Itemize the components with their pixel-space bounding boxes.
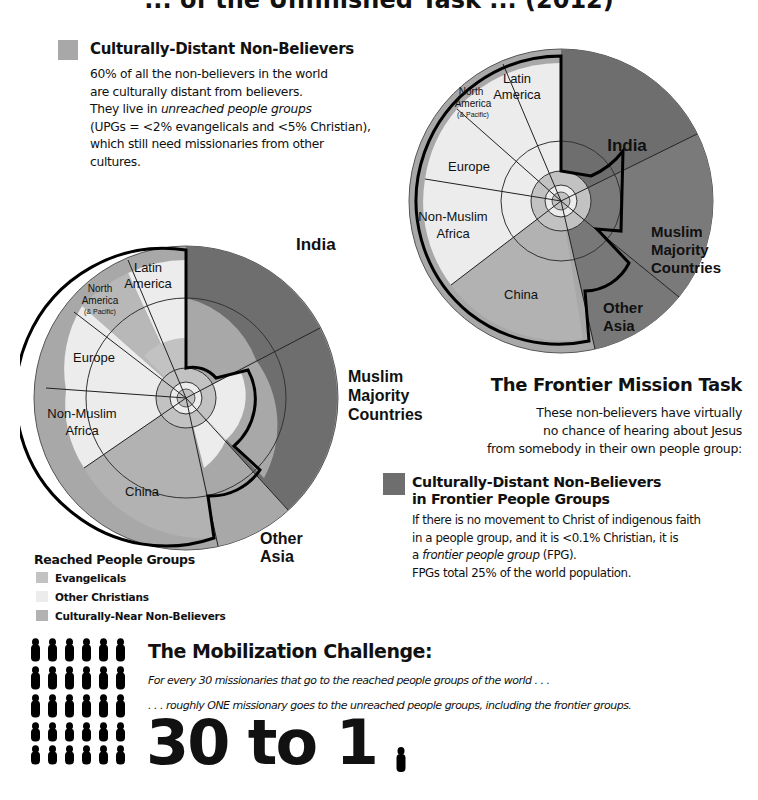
missionary-icon xyxy=(30,638,41,662)
legend-label: Culturally-Near Non-Believers xyxy=(55,610,226,622)
label-india: India xyxy=(607,136,647,155)
missionary-icon xyxy=(98,722,109,742)
label-africa: Non-Muslim xyxy=(47,406,116,421)
legend-item-other-christians: Other Christians xyxy=(36,591,149,603)
label-africa: Non-Muslim xyxy=(418,209,487,224)
legend-distant-body: 60% of all the non-believers in the worl… xyxy=(90,66,390,171)
fpg-text: (FPG). xyxy=(540,548,577,562)
missionary-icon xyxy=(115,638,126,662)
mobilization-title: The Mobilization Challenge: xyxy=(148,640,432,662)
legend-line: 60% of all the non-believers in the worl… xyxy=(90,66,390,84)
single-missionary-icon xyxy=(395,746,407,774)
missionary-icon xyxy=(30,722,41,742)
legend-item-near-nonbelievers: Culturally-Near Non-Believers xyxy=(36,610,226,622)
missionary-icon xyxy=(98,638,109,662)
mobilization-line-1: For every 30 missionaries that go to the… xyxy=(148,674,550,687)
near-nonbelievers-swatch xyxy=(36,610,48,621)
fpg-line: in a people group, and it is <0.1% Chris… xyxy=(412,530,752,548)
page-title: ... of the Unfinished Task ... (2012) xyxy=(0,0,758,14)
missionary-icon xyxy=(115,666,126,690)
legend-item-evangelicals: Evangelicals xyxy=(36,572,126,584)
missionary-icon xyxy=(47,722,58,742)
missionary-icon xyxy=(81,638,92,662)
fpg-term: frontier people group xyxy=(422,548,539,562)
frontier-line: no chance of hearing about Jesus xyxy=(400,422,742,440)
label-north-america: (& Pacific) xyxy=(457,111,489,119)
missionary-icon xyxy=(81,694,92,718)
missionary-icon xyxy=(64,722,75,742)
frontier-line: from somebody in their own people group: xyxy=(400,440,742,458)
missionary-icon xyxy=(64,745,75,765)
missionary-icon xyxy=(30,694,41,718)
missionary-icon xyxy=(30,666,41,690)
label-africa: Africa xyxy=(436,226,470,241)
legend-label: Other Christians xyxy=(55,591,149,603)
legend-line: (UPGs = <2% evangelicals and <5% Christi… xyxy=(90,119,390,137)
label-europe: Europe xyxy=(448,159,490,174)
frontier-body: These non-believers have virtually no ch… xyxy=(400,404,742,458)
other-christians-swatch xyxy=(36,591,48,602)
upg-term: unreached people groups xyxy=(161,102,312,116)
missionary-icon xyxy=(30,745,41,765)
fpg-body: If there is no movement to Christ of ind… xyxy=(412,512,752,582)
legend-line: which still need missionaries from other xyxy=(90,136,390,154)
label-other-asia: Asia xyxy=(260,548,294,565)
distant-swatch xyxy=(58,40,78,60)
missionary-icon xyxy=(81,745,92,765)
label-other-asia: Other xyxy=(603,299,643,316)
label-china: China xyxy=(125,484,160,499)
fpg-title-line: in Frontier People Groups xyxy=(412,491,661,508)
label-north-america: (& Pacific) xyxy=(84,308,116,316)
large-pie-chart: India Muslim Majority Countries Other As… xyxy=(20,230,440,570)
label-other-asia: Asia xyxy=(603,317,635,334)
missionary-icon xyxy=(47,666,58,690)
label-latin-america: Latin xyxy=(503,71,531,86)
label-muslim: Muslim xyxy=(651,223,703,240)
missionary-icon xyxy=(64,694,75,718)
reached-legend-title: Reached People Groups xyxy=(34,552,195,567)
label-muslim: Countries xyxy=(651,259,721,276)
missionary-icon xyxy=(98,666,109,690)
legend-label: Evangelicals xyxy=(55,572,126,584)
label-africa: Africa xyxy=(65,423,99,438)
label-north-america: North xyxy=(459,86,483,97)
label-north-america: North xyxy=(88,283,112,294)
fpg-line: If there is no movement to Christ of ind… xyxy=(412,512,752,530)
missionary-icon xyxy=(47,694,58,718)
legend-distant-title: Culturally-Distant Non-Believers xyxy=(90,40,354,58)
missionary-icon xyxy=(115,745,126,765)
label-other-asia: Other xyxy=(260,530,303,547)
label-europe: Europe xyxy=(73,350,115,365)
evangelicals-swatch xyxy=(36,572,48,583)
small-pie-chart: India Muslim Majority Countries Other As… xyxy=(400,30,730,360)
fpg-title-line: Culturally-Distant Non-Believers xyxy=(412,474,661,491)
missionary-icon xyxy=(47,638,58,662)
legend-line: cultures. xyxy=(90,154,390,172)
fpg-line: a frontier people group (FPG). xyxy=(412,547,752,565)
label-muslim: Majority xyxy=(348,387,409,404)
legend-line: They live in unreached people groups xyxy=(90,101,390,119)
missionary-icon xyxy=(81,722,92,742)
missionary-icon xyxy=(98,745,109,765)
label-muslim: Majority xyxy=(651,241,709,258)
label-china: China xyxy=(504,287,539,302)
missionary-icon xyxy=(64,666,75,690)
fpg-swatch xyxy=(383,473,405,495)
missionary-icon xyxy=(64,638,75,662)
legend-line: are culturally distant from believers. xyxy=(90,84,390,102)
missionary-icon xyxy=(81,666,92,690)
missionary-icon xyxy=(115,694,126,718)
fpg-line: FPGs total 25% of the world population. xyxy=(412,565,752,583)
fpg-text: a xyxy=(412,548,422,562)
frontier-line: These non-believers have virtually xyxy=(400,404,742,422)
missionary-icon xyxy=(47,745,58,765)
label-muslim: Muslim xyxy=(348,368,403,385)
missionary-icon xyxy=(115,722,126,742)
legend-text: They live in xyxy=(90,102,161,116)
label-latin-america: Latin xyxy=(134,260,162,275)
label-india: India xyxy=(296,235,336,254)
frontier-title: The Frontier Mission Task xyxy=(420,374,742,395)
missionary-icon xyxy=(98,694,109,718)
label-north-america: America xyxy=(82,295,119,306)
label-latin-america: America xyxy=(493,87,541,102)
